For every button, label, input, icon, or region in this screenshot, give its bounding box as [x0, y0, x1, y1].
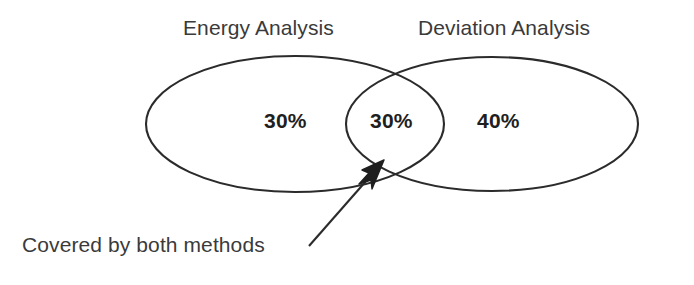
annotation-caption: Covered by both methods: [22, 233, 265, 257]
venn-diagram: Energy Analysis Deviation Analysis 30% 3…: [0, 0, 694, 285]
set-label-energy-analysis: Energy Analysis: [183, 16, 334, 40]
region-value-both: 30%: [370, 109, 413, 133]
set-label-deviation-analysis: Deviation Analysis: [418, 16, 590, 40]
region-value-energy-only: 30%: [264, 109, 307, 133]
region-value-deviation-only: 40%: [477, 109, 520, 133]
